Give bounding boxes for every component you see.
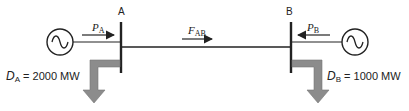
demand-subscript: B (336, 75, 341, 84)
bus-label-a: A (118, 7, 125, 17)
demand-symbol: D (6, 69, 15, 83)
demand-value: = 1000 MW (344, 70, 401, 82)
bus-label-b: B (286, 7, 293, 17)
demand-label-b: DB = 1000 MW (327, 70, 401, 84)
flow-label-fab: FAB (188, 25, 206, 38)
flow-subscript: B (314, 26, 319, 35)
demand-symbol: D (327, 69, 336, 83)
flow-label-pa: PA (92, 22, 105, 35)
demand-label-a: DA = 2000 MW (6, 70, 80, 84)
flow-symbol: P (92, 21, 99, 33)
flow-label-pb: PB (307, 22, 319, 35)
ac-generator-icon (47, 29, 73, 55)
flow-symbol: P (307, 21, 314, 33)
ac-generator-icon (342, 29, 368, 55)
flow-symbol: F (188, 24, 195, 36)
flow-subscript: AB (195, 29, 206, 38)
demand-subscript: A (15, 75, 20, 84)
demand-value: = 2000 MW (23, 70, 80, 82)
demand-arrow-b (292, 60, 329, 103)
flow-subscript: A (99, 26, 105, 35)
diagram-canvas (0, 0, 409, 111)
demand-arrow-a (83, 60, 120, 103)
